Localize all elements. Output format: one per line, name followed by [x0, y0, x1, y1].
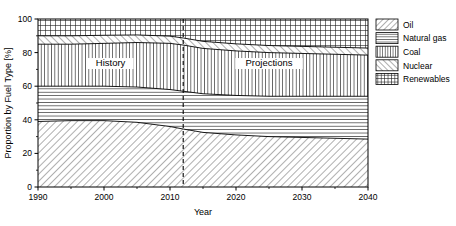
legend-label-coal: Coal — [403, 47, 421, 57]
legend-swatch-nuclear — [376, 60, 398, 71]
x-tick-label: 2020 — [227, 192, 246, 202]
legend-swatch-oil — [376, 19, 398, 30]
x-tick-label: 1990 — [29, 192, 48, 202]
chart-canvas: 020406080100 199020002010202020302040 Pr… — [0, 0, 456, 226]
legend-label-oil: Oil — [403, 20, 414, 30]
fuel-mix-stacked-area-chart: 020406080100 199020002010202020302040 Pr… — [0, 0, 456, 226]
y-axis-title: Proportion by Fuel Type [%] — [3, 48, 13, 159]
x-tick-label: 2040 — [359, 192, 378, 202]
y-tick-label: 60 — [23, 81, 33, 91]
legend-label-nuclear: Nuclear — [403, 61, 432, 71]
x-tick-label: 2030 — [293, 192, 312, 202]
y-tick-label: 20 — [23, 148, 33, 158]
y-tick-label: 100 — [18, 14, 32, 24]
era-label-projections: Projections — [246, 57, 293, 68]
legend-label-renewables: Renewables — [403, 74, 450, 84]
x-tick-label: 2010 — [161, 192, 180, 202]
x-tick-label: 2000 — [95, 192, 114, 202]
x-axis-title: Year — [194, 207, 212, 217]
y-tick-label: 80 — [23, 48, 33, 58]
legend-label-natural-gas: Natural gas — [403, 33, 446, 43]
y-tick-label: 40 — [23, 115, 33, 125]
y-tick-label: 0 — [27, 182, 32, 192]
era-label-history: History — [96, 57, 126, 68]
legend-swatch-coal — [376, 46, 398, 57]
legend-swatch-renewables — [376, 73, 398, 84]
legend-swatch-natural-gas — [376, 33, 398, 44]
